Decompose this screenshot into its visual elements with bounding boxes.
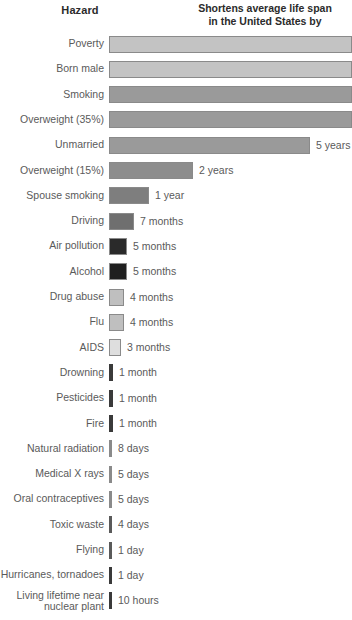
chart-row: Medical X rays5 days (0, 463, 352, 485)
bar-group (109, 58, 352, 80)
row-label: Natural radiation (0, 443, 104, 455)
row-label: Pesticides (0, 392, 104, 404)
chart-row: Natural radiation8 days (0, 438, 352, 460)
chart-row: Living lifetime near nuclear plant10 hou… (0, 590, 352, 612)
bar-group: 5 years (109, 134, 350, 156)
column-header-lifespan-line2: in the United States by (178, 15, 352, 28)
row-label: Drug abuse (0, 291, 104, 303)
row-label: AIDS (0, 342, 104, 354)
row-label: Unmarried (0, 139, 104, 151)
bar-group: 2 years (109, 160, 233, 182)
bar-group: 1 month (109, 387, 157, 409)
bar-group: 4 months (109, 311, 173, 333)
bar (109, 213, 134, 230)
row-label: Poverty (0, 38, 104, 50)
bar-value-label: 1 day (118, 570, 144, 581)
bar-value-label: 1 month (119, 393, 157, 404)
bar (109, 263, 127, 280)
bar-value-label: 1 year (155, 190, 184, 201)
row-label: Born male (0, 64, 104, 76)
bar (109, 415, 113, 432)
bar-group: 4 months (109, 286, 173, 308)
chart-row: Flying1 day (0, 539, 352, 561)
chart-row: Spouse smoking1 year (0, 185, 352, 207)
row-label: Smoking (0, 89, 104, 101)
bar-value-label: 3 months (127, 342, 170, 353)
column-header-hazard: Hazard (0, 4, 160, 16)
chart-row: Flu4 months (0, 311, 352, 333)
bar-group (109, 84, 352, 106)
bar-group: 10 hours (109, 590, 159, 612)
bar-group (109, 109, 352, 131)
bar-value-label: 2 years (199, 165, 233, 176)
chart-row: Smoking (0, 84, 352, 106)
bar-value-label: 1 day (118, 545, 144, 556)
bar (109, 61, 352, 78)
row-label: Medical X rays (0, 468, 104, 480)
chart-row: Alcohol5 months (0, 261, 352, 283)
chart-row: Drug abuse4 months (0, 286, 352, 308)
row-label: Toxic waste (0, 519, 104, 531)
bar-group: 8 days (109, 438, 149, 460)
bar (109, 339, 121, 356)
bar-value-label: 5 months (133, 241, 176, 252)
bar-group: 5 days (109, 463, 149, 485)
chart-row: Overweight (35%) (0, 109, 352, 131)
column-header-lifespan-line1: Shortens average life span (198, 2, 332, 14)
bar (109, 390, 113, 407)
bar-value-label: 1 month (119, 418, 157, 429)
bar-value-label: 5 days (118, 469, 149, 480)
chart-row: Born male (0, 58, 352, 80)
row-label: Hurricanes, tornadoes (0, 570, 104, 582)
bar-group: 3 months (109, 337, 170, 359)
row-label: Fire (0, 418, 104, 430)
row-label: Air pollution (0, 241, 104, 253)
bar-group: 5 months (109, 235, 176, 257)
row-label: Living lifetime near nuclear plant (0, 589, 104, 612)
chart-row: Driving7 months (0, 210, 352, 232)
chart-row: Overweight (15%)2 years (0, 160, 352, 182)
bar-value-label: 7 months (140, 216, 183, 227)
chart-row: AIDS3 months (0, 337, 352, 359)
chart-row: Pesticides1 month (0, 387, 352, 409)
bar-value-label: 5 months (133, 266, 176, 277)
chart-row: Unmarried5 years (0, 134, 352, 156)
bar-group: 5 months (109, 261, 176, 283)
bar-value-label: 4 months (130, 292, 173, 303)
column-header-lifespan: Shortens average life span in the United… (178, 2, 352, 28)
bar-group: 1 month (109, 362, 157, 384)
bar (109, 542, 112, 559)
chart-row: Toxic waste4 days (0, 514, 352, 536)
bar (109, 111, 352, 128)
bar (109, 592, 112, 609)
hazard-life-span-chart: Hazard Shortens average life span in the… (0, 0, 352, 620)
bar-value-label: 4 days (118, 519, 149, 530)
row-label: Oral contraceptives (0, 494, 104, 506)
bar (109, 86, 352, 103)
chart-row: Oral contraceptives5 days (0, 488, 352, 510)
bar-group: 1 day (109, 564, 144, 586)
bar-group: 4 days (109, 514, 149, 536)
bar (109, 162, 193, 179)
bar-value-label: 5 days (118, 494, 149, 505)
bar (109, 137, 310, 154)
bar-value-label: 4 months (130, 317, 173, 328)
row-label: Alcohol (0, 266, 104, 278)
bar (109, 516, 112, 533)
bar-group: 1 year (109, 185, 184, 207)
row-label: Overweight (15%) (0, 165, 104, 177)
bar-group: 1 month (109, 413, 157, 435)
bar-value-label: 1 month (119, 367, 157, 378)
bar (109, 364, 113, 381)
bar (109, 466, 112, 483)
bar-group: 7 months (109, 210, 183, 232)
chart-row: Fire1 month (0, 413, 352, 435)
bar-group: 1 day (109, 539, 144, 561)
bar (109, 491, 112, 508)
row-label: Flu (0, 317, 104, 329)
row-label: Spouse smoking (0, 190, 104, 202)
chart-row: Hurricanes, tornadoes1 day (0, 564, 352, 586)
bar-value-label: 10 hours (118, 595, 159, 606)
row-label: Driving (0, 215, 104, 227)
chart-row: Drowning1 month (0, 362, 352, 384)
